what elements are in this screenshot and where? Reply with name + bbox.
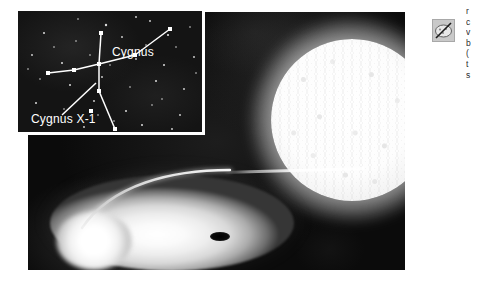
field-star: [167, 34, 169, 36]
crossed-out-image-glyph: [433, 20, 454, 41]
field-star: [77, 18, 79, 20]
field-star: [83, 126, 85, 128]
constellation-star-wing-tip: [168, 27, 172, 31]
caption-line: r: [466, 6, 479, 17]
field-star: [89, 54, 91, 56]
field-star: [27, 68, 29, 70]
field-star: [163, 64, 165, 66]
field-star: [129, 86, 131, 88]
field-star: [171, 128, 173, 130]
field-star: [63, 108, 65, 110]
field-star: [121, 36, 123, 38]
constellation-star-sadr: [97, 62, 101, 66]
field-star: [189, 26, 191, 28]
field-star: [35, 102, 37, 104]
field-star: [155, 80, 157, 82]
caption-line: v: [466, 27, 479, 38]
constellation-line: [99, 33, 101, 64]
field-star: [43, 32, 45, 34]
caption-line: c: [466, 17, 479, 28]
field-star: [69, 84, 71, 86]
field-star: [53, 46, 55, 48]
field-star: [105, 24, 107, 26]
field-star: [97, 114, 99, 116]
caption-line: b: [466, 38, 479, 49]
field-star: [93, 100, 95, 102]
caption-text-column: r c v b ( t s: [466, 6, 479, 80]
field-star: [179, 114, 181, 116]
field-star: [151, 104, 153, 106]
field-star: [75, 40, 77, 42]
field-star: [39, 78, 41, 80]
field-star: [61, 62, 63, 64]
constellation-star-albireo: [113, 127, 117, 131]
caption-line: s: [466, 70, 479, 81]
constellation-star-eta-cygni: [97, 89, 101, 93]
caption-line: (: [466, 48, 479, 59]
constellation-label-cygnus: Cygnus: [112, 45, 154, 59]
constellation-inset: Cygnus Cygnus X-1: [18, 11, 202, 132]
constellation-star-mid-wing-left: [72, 68, 76, 72]
constellation-star-delta-cygni: [46, 71, 50, 75]
field-star: [101, 76, 103, 78]
constellation-star-deneb: [99, 31, 103, 35]
constellation-label-cygnus-x1: Cygnus X-1: [31, 112, 96, 126]
caption-line: t: [466, 59, 479, 70]
field-star: [113, 120, 115, 122]
field-star: [161, 98, 163, 100]
field-star: [141, 124, 143, 126]
field-star: [135, 16, 137, 18]
constellation-line: [99, 91, 115, 129]
constellation-line: [74, 64, 99, 70]
constellation-inset-frame: Cygnus Cygnus X-1: [15, 8, 205, 135]
field-star: [125, 110, 127, 112]
field-star: [31, 54, 33, 56]
field-star: [195, 72, 197, 74]
constellation-line: [48, 70, 74, 73]
gas-stream-curved-segment: [52, 140, 252, 230]
black-hole: [210, 232, 230, 241]
crossed-out-image-icon[interactable]: [432, 19, 455, 42]
field-star: [109, 64, 111, 66]
field-star: [175, 46, 177, 48]
field-star: [183, 88, 185, 90]
field-star: [149, 20, 151, 22]
field-star: [193, 56, 195, 58]
